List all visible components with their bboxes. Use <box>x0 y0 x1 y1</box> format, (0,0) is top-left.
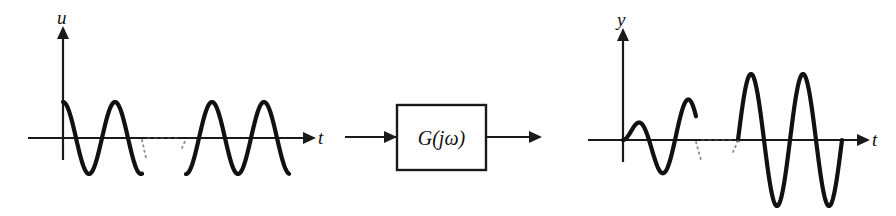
input-signal-plot: u t <box>28 7 324 174</box>
input-time-axis-arrowhead <box>303 132 316 144</box>
output-time-axis-label: t <box>872 129 878 150</box>
frequency-response-figure: u t G(jω) y t <box>0 0 896 216</box>
input-waveform-tail-dots-left <box>142 140 146 158</box>
figure-canvas: u t G(jω) y t <box>0 0 896 216</box>
input-time-axis-label: t <box>318 127 324 148</box>
block-label: G(jω) <box>418 127 466 150</box>
output-amplitude-axis-label: y <box>615 9 626 30</box>
block-input-arrowhead <box>384 131 397 143</box>
output-waveform-tail-dots-right <box>733 141 738 152</box>
input-waveform-early-segment <box>63 102 142 174</box>
input-waveform-tail-dots-right <box>182 139 186 148</box>
input-amplitude-axis-label: u <box>57 7 67 28</box>
block-output-arrowhead <box>529 131 542 143</box>
output-time-axis-arrowhead <box>857 134 870 146</box>
output-waveform-transient-segment <box>623 99 696 173</box>
transfer-function-block[interactable]: G(jω) <box>345 105 542 170</box>
output-waveform-tail-dots-left <box>696 142 701 160</box>
output-signal-plot: y t <box>588 9 878 206</box>
